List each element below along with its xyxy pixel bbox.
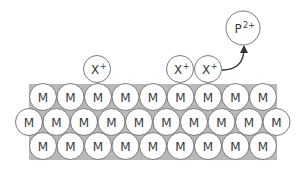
metal-atom: M bbox=[112, 84, 139, 111]
atom-label: M bbox=[93, 140, 103, 154]
atom-label: M bbox=[38, 140, 48, 154]
atom-label: M bbox=[175, 91, 185, 105]
product-ion: P2+ bbox=[226, 11, 260, 45]
metal-atom: M bbox=[43, 109, 70, 136]
atom-label: M bbox=[148, 91, 158, 105]
product-label: P bbox=[234, 22, 241, 36]
atom-label: M bbox=[271, 116, 281, 130]
metal-atom: M bbox=[195, 133, 222, 160]
atom-label: M bbox=[216, 116, 226, 130]
metal-atom: M bbox=[30, 84, 57, 111]
atom-label: M bbox=[134, 116, 144, 130]
metal-atom: M bbox=[236, 109, 263, 136]
atom-label: M bbox=[106, 116, 116, 130]
ion-charge: + bbox=[211, 62, 218, 71]
atom-label: M bbox=[203, 91, 213, 105]
metal-atom: M bbox=[71, 109, 98, 136]
metal-atom: M bbox=[57, 133, 84, 160]
atom-label: M bbox=[230, 91, 240, 105]
metal-atom: M bbox=[57, 84, 84, 111]
adsorbate-ion: X+ bbox=[84, 56, 111, 83]
atom-label: M bbox=[65, 140, 75, 154]
metal-atom: M bbox=[167, 84, 194, 111]
metal-atom: M bbox=[222, 133, 249, 160]
metal-atom: M bbox=[112, 133, 139, 160]
metal-atom: M bbox=[222, 84, 249, 111]
product-charge: 2+ bbox=[243, 21, 255, 30]
metal-atom: M bbox=[85, 84, 112, 111]
metal-atom: M bbox=[16, 109, 43, 136]
metal-atom: M bbox=[263, 109, 290, 136]
ion-label: X bbox=[174, 63, 182, 77]
metal-atom: M bbox=[208, 109, 235, 136]
atom-label: M bbox=[65, 91, 75, 105]
adsorbed-ions: X+X+X+ bbox=[84, 56, 222, 83]
metal-lattice: MMMMMMMMMMMMMMMMMMMMMMMMMMMM bbox=[16, 84, 291, 160]
ion-label: X bbox=[202, 63, 210, 77]
metal-atom: M bbox=[140, 84, 167, 111]
atom-label: M bbox=[230, 140, 240, 154]
metal-atom: M bbox=[195, 84, 222, 111]
atom-label: M bbox=[79, 116, 89, 130]
adsorbate-ion: X+ bbox=[167, 56, 194, 83]
atom-label: M bbox=[120, 140, 130, 154]
metal-atom: M bbox=[126, 109, 153, 136]
metal-atom: M bbox=[167, 133, 194, 160]
atom-label: M bbox=[93, 91, 103, 105]
ion-charge: + bbox=[100, 62, 107, 71]
metal-atom: M bbox=[30, 133, 57, 160]
atom-label: M bbox=[51, 116, 61, 130]
atom-label: M bbox=[175, 140, 185, 154]
atom-label: M bbox=[38, 91, 48, 105]
surface-desorption-diagram: MMMMMMMMMMMMMMMMMMMMMMMMMMMM X+X+X+ P2+ bbox=[0, 0, 304, 171]
atom-label: M bbox=[24, 116, 34, 130]
atom-label: M bbox=[148, 140, 158, 154]
ion-label: X bbox=[91, 63, 99, 77]
desorption-arrow bbox=[222, 48, 244, 70]
metal-atom: M bbox=[153, 109, 180, 136]
atom-label: M bbox=[161, 116, 171, 130]
atom-label: M bbox=[189, 116, 199, 130]
metal-atom: M bbox=[250, 133, 277, 160]
atom-label: M bbox=[244, 116, 254, 130]
ion-charge: + bbox=[183, 62, 190, 71]
atom-label: M bbox=[120, 91, 130, 105]
metal-atom: M bbox=[140, 133, 167, 160]
metal-atom: M bbox=[85, 133, 112, 160]
adsorbate-ion: X+ bbox=[195, 56, 222, 83]
atom-label: M bbox=[258, 91, 268, 105]
atom-label: M bbox=[203, 140, 213, 154]
metal-atom: M bbox=[181, 109, 208, 136]
metal-atom: M bbox=[250, 84, 277, 111]
atom-label: M bbox=[258, 140, 268, 154]
metal-atom: M bbox=[98, 109, 125, 136]
